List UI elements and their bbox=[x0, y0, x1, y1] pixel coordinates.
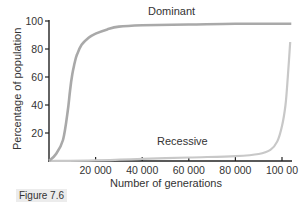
x-axis-title: Number of generations bbox=[110, 177, 222, 189]
line-chart: 20406080100 20 00040 00060 00080 000100 … bbox=[0, 0, 307, 204]
x-tick-label: 60 000 bbox=[173, 164, 205, 176]
y-ticks: 20406080100 bbox=[25, 15, 49, 139]
figure-caption: Figure 7.6 bbox=[16, 189, 67, 202]
y-tick-label: 60 bbox=[31, 71, 43, 83]
x-tick-label: 20 000 bbox=[80, 164, 112, 176]
x-tick-label: 80 000 bbox=[219, 164, 251, 176]
y-tick-label: 100 bbox=[25, 15, 43, 27]
recessive-label: Recessive bbox=[157, 135, 208, 147]
y-tick-label: 40 bbox=[31, 99, 43, 111]
x-tick-label: 40 000 bbox=[126, 164, 158, 176]
y-tick-label: 80 bbox=[31, 43, 43, 55]
y-tick-label: 20 bbox=[31, 127, 43, 139]
dominant-label: Dominant bbox=[148, 5, 195, 17]
x-tick-label: 100 00 bbox=[266, 164, 298, 176]
y-axis-title: Percentage of population bbox=[11, 28, 23, 150]
